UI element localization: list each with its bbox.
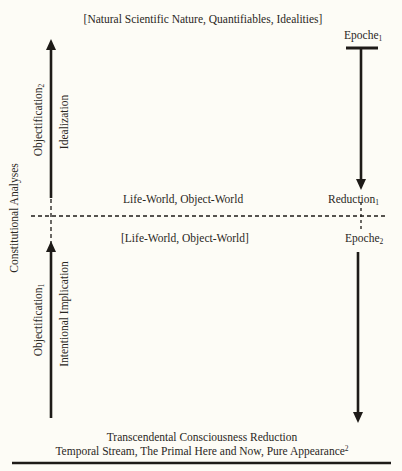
epoche1-subscript: 1 xyxy=(378,34,382,43)
epoche2-label: Epoche2 xyxy=(345,233,383,245)
downward-arrow-lower xyxy=(353,252,363,423)
objectification2-label: Objectification2 xyxy=(33,84,45,157)
life-world-upper-label: Life-World, Object-World xyxy=(123,194,243,206)
bottom-line-1: Transcendental Consciousness Reduction xyxy=(107,432,298,444)
reduction1-text: Reduction xyxy=(328,193,375,205)
epoche2-text: Epoche xyxy=(345,232,379,244)
objectification2-text: Objectification xyxy=(32,87,44,156)
upward-arrow-lower xyxy=(46,241,56,418)
intentional-implication-label: Intentional Implication xyxy=(59,261,71,367)
objectification1-subscript: 1 xyxy=(37,284,46,288)
footnote-marker: 2 xyxy=(345,444,349,453)
epoche2-subscript: 2 xyxy=(379,237,383,246)
objectification1-text: Objectification xyxy=(32,287,44,356)
top-label: [Natural Scientific Nature, Quantifiable… xyxy=(84,14,323,26)
upward-arrow-upper xyxy=(46,39,56,250)
epoche1-text: Epoche xyxy=(344,29,378,41)
constitutional-analyses-label: Constitutional Analyses xyxy=(9,163,21,273)
downward-arrow-upper xyxy=(346,48,378,190)
reduction1-label: Reduction1 xyxy=(328,194,379,206)
epoche1-label: Epoche1 xyxy=(344,30,382,42)
idealization-label: Idealization xyxy=(59,95,71,149)
reduction1-subscript: 1 xyxy=(375,198,379,207)
bottom-line-2-text: Temporal Stream, The Primal Here and Now… xyxy=(55,445,344,457)
life-world-lower-label: [Life-World, Object-World] xyxy=(121,233,249,245)
bottom-line-2: Temporal Stream, The Primal Here and Now… xyxy=(55,446,348,458)
objectification2-subscript: 2 xyxy=(37,84,46,88)
objectification1-label: Objectification1 xyxy=(33,284,45,357)
